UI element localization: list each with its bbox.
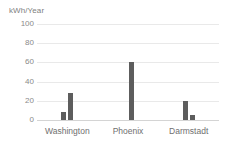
y-axis-tick-label: 100 [21, 20, 34, 28]
bar-group [122, 24, 134, 120]
bar-group [61, 24, 73, 120]
y-axis-tick-label: 0 [30, 116, 34, 124]
axis-baseline [37, 120, 219, 121]
bar [68, 93, 73, 120]
y-axis-title: kWh/Year [9, 6, 44, 15]
plot-area [37, 24, 219, 120]
bar [183, 101, 188, 120]
x-axis-tick-labels: WashingtonPhoenixDarmstadt [37, 126, 219, 146]
bar [190, 115, 195, 120]
y-axis-tick-labels: 020406080100 [0, 24, 34, 120]
y-axis-tick-label: 60 [25, 58, 34, 66]
x-axis-tick-label: Washington [37, 126, 98, 136]
bar-group [183, 24, 195, 120]
x-axis-tick-label: Phoenix [98, 126, 159, 136]
bar-chart: kWh/Year 020406080100 WashingtonPhoenixD… [0, 0, 225, 155]
x-axis-tick-label: Darmstadt [158, 126, 219, 136]
bar [129, 62, 134, 120]
y-axis-tick-label: 20 [25, 97, 34, 105]
bar [61, 112, 66, 120]
y-axis-tick-label: 80 [25, 39, 34, 47]
y-axis-tick-label: 40 [25, 78, 34, 86]
